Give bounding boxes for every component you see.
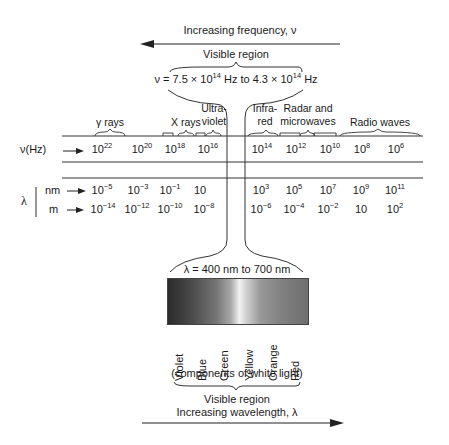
- region-radio-waves: Radio waves: [350, 116, 410, 128]
- m-value: 10−14: [91, 203, 116, 215]
- nm-value: 10−5: [92, 184, 113, 196]
- frequency-row-label: ν(Hz): [20, 143, 46, 155]
- arrow-right-icon: [78, 188, 86, 194]
- m-value: 10−4: [284, 203, 305, 215]
- nm-value: 1011: [385, 184, 405, 196]
- arrow-right-icon: [330, 419, 344, 427]
- region-x-rays: X rays: [171, 116, 201, 128]
- nm-value: 109: [353, 184, 369, 196]
- frequency-arrow-label: Increasing frequency, ν: [184, 24, 297, 36]
- components-label: (components of white light): [171, 367, 302, 379]
- visible-spectrum-bar: [167, 278, 309, 325]
- nm-value: 107: [320, 184, 336, 196]
- region-gamma-rays: γ rays: [96, 116, 124, 128]
- nm-value: 10−1: [160, 184, 181, 196]
- nm-value: 105: [286, 184, 302, 196]
- freq-value: 1018: [165, 143, 186, 155]
- visible-region-label-top: Visible region: [203, 48, 269, 60]
- freq-value: 1012: [286, 143, 307, 155]
- freq-value: 1020: [132, 143, 153, 155]
- freq-value: 1022: [92, 143, 113, 155]
- freq-value: 1014: [252, 143, 273, 155]
- m-value: 10−2: [318, 203, 339, 215]
- wavelength-arrow-label: Increasing wavelength, λ: [176, 406, 297, 418]
- m-value: 10−10: [158, 203, 183, 215]
- region-ultraviolet: Ultra-violet: [201, 102, 227, 128]
- m-value: 10: [355, 203, 367, 215]
- freq-value: 106: [388, 143, 404, 155]
- arrow-right-icon: [76, 207, 84, 213]
- m-value: 10−6: [251, 203, 272, 215]
- m-value: 102: [387, 203, 403, 215]
- visible-wavelength-range: λ = 400 nm to 700 nm: [184, 263, 291, 275]
- nm-value: 10: [194, 184, 206, 196]
- freq-value: 1016: [198, 143, 219, 155]
- visible-region-label-bottom: Visible region: [204, 393, 270, 405]
- nm-value: 103: [253, 184, 269, 196]
- nm-value: 10−3: [128, 184, 149, 196]
- m-row-label: m: [49, 203, 58, 215]
- m-value: 10−8: [194, 203, 215, 215]
- arrow-left-icon: [140, 40, 154, 48]
- freq-value: 108: [354, 143, 370, 155]
- region-radar-microwaves: Radar andmicrowaves: [280, 102, 335, 128]
- freq-value: 1010: [320, 143, 341, 155]
- arrow-right-icon: [76, 148, 84, 154]
- region-infrared: Infra-red: [253, 102, 278, 128]
- lambda-symbol: λ: [21, 194, 27, 209]
- nm-row-label: nm: [45, 184, 60, 196]
- m-value: 10−12: [125, 203, 150, 215]
- visible-frequency-range: ν = 7.5 × 1014 Hz to 4.3 × 1014 Hz: [154, 73, 317, 85]
